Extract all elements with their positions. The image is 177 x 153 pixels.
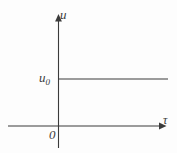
x-axis-label: τ [163, 114, 167, 126]
y-axis-label: u [60, 8, 67, 21]
figure-container: u u0 0 τ [0, 0, 177, 153]
origin-label: 0 [49, 128, 56, 141]
y-value-label-u0: u0 [39, 71, 50, 87]
plot-canvas [0, 0, 177, 153]
y-value-label-subscript: 0 [46, 77, 51, 87]
